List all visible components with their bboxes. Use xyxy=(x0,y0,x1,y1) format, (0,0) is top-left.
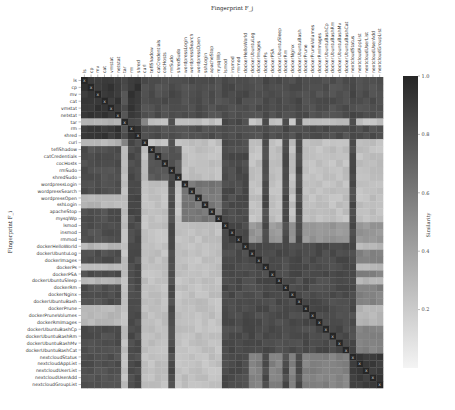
heatmap-cell xyxy=(121,215,128,222)
heatmap-cell xyxy=(175,77,182,84)
heatmap-cell xyxy=(121,264,128,271)
heatmap-cell xyxy=(363,236,370,243)
heatmap-cell xyxy=(343,98,350,105)
heatmap-cell xyxy=(222,250,229,257)
heatmap-cell xyxy=(289,84,296,91)
heatmap-cell xyxy=(282,347,289,354)
heatmap-cell xyxy=(262,271,269,278)
heatmap-cell xyxy=(168,277,175,284)
heatmap-cell xyxy=(376,347,383,354)
heatmap-cell xyxy=(249,305,256,312)
heatmap-cell xyxy=(162,132,169,139)
heatmap-cell xyxy=(229,77,236,84)
heatmap-cell xyxy=(141,91,148,98)
heatmap-cell xyxy=(128,146,135,153)
heatmap-cell xyxy=(336,112,343,119)
heatmap-cell xyxy=(343,181,350,188)
heatmap-cell xyxy=(276,229,283,236)
heatmap-cell xyxy=(81,98,88,105)
heatmap-cell xyxy=(276,222,283,229)
heatmap-cell xyxy=(162,181,169,188)
heatmap-cell xyxy=(94,319,101,326)
heatmap-cell xyxy=(188,250,195,257)
heatmap-cell xyxy=(269,167,276,174)
heatmap-cell xyxy=(141,208,148,215)
heatmap-cell xyxy=(370,153,377,160)
row-tick-label: lsmod xyxy=(63,223,77,228)
heatmap-cell xyxy=(349,312,356,319)
heatmap-cell xyxy=(108,243,115,250)
heatmap-cell xyxy=(302,84,309,91)
heatmap-cell xyxy=(316,167,323,174)
heatmap-cell xyxy=(262,374,269,381)
heatmap-cell xyxy=(128,319,135,326)
heatmap-cell xyxy=(135,181,142,188)
heatmap-cell xyxy=(94,333,101,340)
heatmap-cell xyxy=(162,139,169,146)
heatmap-cell xyxy=(168,305,175,312)
heatmap-cell xyxy=(262,188,269,195)
heatmap-cell xyxy=(329,257,336,264)
heatmap-cell xyxy=(262,146,269,153)
heatmap-cell xyxy=(175,222,182,229)
heatmap-cell xyxy=(175,326,182,333)
heatmap-cell xyxy=(115,264,122,271)
heatmap-cell xyxy=(309,277,316,284)
heatmap-cell xyxy=(141,188,148,195)
heatmap-cell xyxy=(376,229,383,236)
heatmap-cell xyxy=(363,188,370,195)
heatmap-cell xyxy=(135,160,142,167)
heatmap-cell xyxy=(222,236,229,243)
heatmap-cell xyxy=(128,326,135,333)
heatmap-cell xyxy=(289,381,296,388)
heatmap-cell xyxy=(101,118,108,125)
heatmap-cell xyxy=(81,125,88,132)
heatmap-cell xyxy=(141,77,148,84)
heatmap-cell xyxy=(376,319,383,326)
heatmap-cell xyxy=(296,139,303,146)
heatmap-cell xyxy=(94,105,101,112)
diagonal-marker: x xyxy=(190,189,193,194)
heatmap-cell xyxy=(168,353,175,360)
column-tick-label: shredSudo xyxy=(176,48,181,73)
heatmap-cell xyxy=(141,340,148,347)
heatmap-cell xyxy=(249,271,256,278)
heatmap-cell xyxy=(356,250,363,257)
heatmap-cell xyxy=(235,291,242,298)
heatmap-cell xyxy=(255,367,262,374)
heatmap-cell xyxy=(94,353,101,360)
heatmap-cell xyxy=(349,291,356,298)
heatmap-cell xyxy=(141,347,148,354)
heatmap-cell xyxy=(88,160,95,167)
heatmap-cell xyxy=(121,139,128,146)
heatmap-cell xyxy=(148,340,155,347)
figure-caption xyxy=(6,398,451,410)
heatmap-cell xyxy=(202,264,209,271)
heatmap-cell xyxy=(323,312,330,319)
diagonal-marker: x xyxy=(224,223,227,228)
heatmap-cell xyxy=(316,243,323,250)
column-tick-label: wordpressOpen xyxy=(196,37,201,73)
heatmap-cell xyxy=(162,243,169,250)
heatmap-cell xyxy=(148,208,155,215)
heatmap-cell xyxy=(296,153,303,160)
heatmap-cell xyxy=(202,319,209,326)
heatmap-cell xyxy=(349,91,356,98)
heatmap-cell xyxy=(162,91,169,98)
heatmap-cell xyxy=(276,105,283,112)
heatmap-cell xyxy=(255,277,262,284)
heatmap-cell xyxy=(188,353,195,360)
heatmap-cell xyxy=(195,105,202,112)
row-tick-label: dockerImages xyxy=(45,258,78,263)
heatmap-cell xyxy=(376,277,383,284)
heatmap-cell xyxy=(135,153,142,160)
heatmap-cell xyxy=(188,222,195,229)
column-tick-label: dockerUbuntuBashMv xyxy=(337,22,342,73)
heatmap-cell xyxy=(269,305,276,312)
heatmap-cell xyxy=(202,84,209,91)
heatmap-cell xyxy=(289,333,296,340)
heatmap-cell xyxy=(276,77,283,84)
heatmap-cell xyxy=(343,243,350,250)
heatmap-cell xyxy=(249,374,256,381)
heatmap-cell xyxy=(168,264,175,271)
